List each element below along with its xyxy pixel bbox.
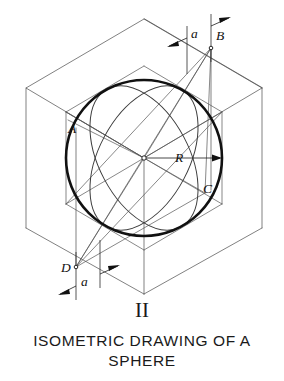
label-point-a: A xyxy=(67,121,77,136)
line-d-to-c xyxy=(76,193,205,267)
diagonal-top-right xyxy=(144,19,262,88)
label-offset-bottom: a xyxy=(81,274,88,289)
sphere-centre-point xyxy=(142,156,146,160)
cube-bottom-right-edge xyxy=(144,228,262,294)
line-b-to-lower-left xyxy=(66,48,211,204)
cube-top-face xyxy=(26,19,262,158)
label-radius: R xyxy=(174,150,184,165)
line-centre-to-a xyxy=(68,120,144,158)
label-point-d: D xyxy=(60,260,71,275)
line-b-to-c xyxy=(205,48,211,193)
label-point-b: B xyxy=(216,28,224,43)
top-arrowhead-left xyxy=(167,41,179,47)
bottom-arrowhead-right xyxy=(108,265,120,271)
point-d-marker xyxy=(74,265,78,269)
point-b-marker xyxy=(209,46,213,50)
label-point-c: C xyxy=(203,181,213,196)
label-offset-top: a xyxy=(191,26,198,41)
isometric-drawing-svg: A B C D R a a xyxy=(0,0,284,381)
top-offset-dimension xyxy=(167,14,231,74)
caption-line-2: SPHERE xyxy=(0,351,284,371)
isometric-sphere-figure: A B C D R a a II ISOMETRIC DRAWING OF A … xyxy=(0,0,284,381)
bottom-arrowhead-left xyxy=(58,289,70,295)
figure-caption: ISOMETRIC DRAWING OF A SPHERE xyxy=(0,331,284,371)
figure-number: II xyxy=(0,300,284,321)
caption-line-1: ISOMETRIC DRAWING OF A xyxy=(0,331,284,351)
top-arrowhead-right xyxy=(219,17,231,23)
radius-arrowhead xyxy=(212,155,222,162)
